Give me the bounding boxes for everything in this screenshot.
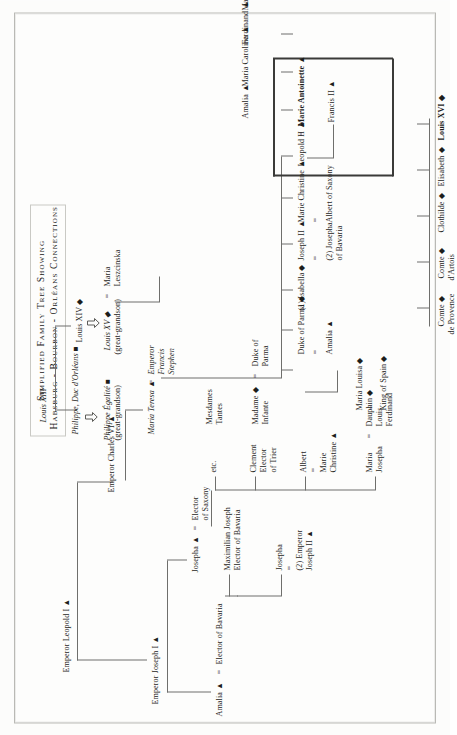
connector-louis15-bar — [159, 276, 160, 302]
node-louis-xv: Louis XV ◆ — [103, 311, 113, 350]
node-mesdames-tantes-line-2: Tantes — [215, 402, 225, 424]
node-mesdames-tantes-line-1: Mesdames — [205, 389, 215, 424]
connector-maria-louisa-bracket — [305, 391, 337, 392]
node-emperor-joseph-ii-second: (2) Emperor — [295, 529, 305, 570]
node-comte-de-provence-line-1: Comte ◆ — [437, 296, 447, 326]
tick-marie-antoinette — [281, 155, 293, 156]
connector-saxony-to-clement — [255, 476, 256, 490]
node-elector-saxony-line-2: of Saxony — [201, 486, 211, 520]
node-etc-saxony: etc. — [209, 460, 219, 472]
tick-ferdinand — [281, 33, 293, 34]
node-clement-line-1: Clement — [249, 444, 259, 472]
node-duke-of-parma-equals: = — [311, 349, 321, 354]
connector-saxony-entry — [211, 490, 212, 526]
family-tree-chart: Simplified Family Tree Showing Habsburg … — [15, 13, 435, 722]
node-philippe-egalite-note: (great-grandson) — [113, 384, 123, 440]
tick-louis16 — [417, 123, 429, 124]
node-duke-of-parma-line-1: Duke of — [251, 339, 261, 366]
tick-maria-louisa — [281, 369, 293, 370]
node-marie-antoinette-equals: = — [297, 131, 307, 136]
tick-comte-artois — [417, 261, 429, 262]
node-maria-louisa: Maria Louisa ◆ — [355, 357, 365, 410]
node-king-of-spain: King of Spain ◆ — [379, 355, 389, 410]
node-francis-ii: Francis II ▲ — [327, 80, 337, 122]
node-josepha-bavaria-equals: = — [285, 565, 295, 570]
connector-charles6-down — [125, 409, 143, 410]
node-maria-josepha-line-2: Josepha — [375, 446, 385, 472]
connector-leopold1-horizontal — [77, 482, 78, 660]
node-max-mt: Max ▲ — [241, 0, 251, 10]
node-albert-equals: = — [309, 467, 319, 472]
node-albert-spouse-line-2: Christine ▲ — [329, 431, 339, 472]
connector-louis16-siblings-bar — [429, 118, 430, 326]
node-elector-of-bavaria: Elector of Bavaria — [215, 603, 225, 664]
connector-bavaria-to-max — [229, 574, 230, 596]
node-emperor-joseph-ii-second-name: Joseph II ▲ — [305, 529, 315, 570]
box-bottom-edge — [392, 58, 394, 176]
box-left-edge — [273, 175, 393, 177]
node-elisabeth: Elisabeth ◆ — [437, 147, 447, 186]
connector-bavaria-vertical — [225, 595, 281, 596]
connector-louis15-spine — [115, 301, 159, 302]
connector-joseph1-to-amalia — [167, 691, 211, 692]
tick-comte-provence — [417, 307, 429, 308]
node-albert-spouse-line-1: Marie — [319, 452, 329, 472]
node-josepha-bavaria: Josepha — [275, 544, 285, 570]
connector-leopold2-bar — [333, 124, 334, 158]
node-joseph-ii-second-equals: = — [311, 255, 321, 260]
node-isabella: (1) Isabella ◆ — [297, 264, 307, 310]
node-josepha-habsburg: Josepha ▲ — [191, 535, 201, 572]
node-amalia-habsburg: Amalia ▲ — [215, 681, 225, 716]
node-maria-leszcinska-line-2: Leszcinska — [113, 249, 123, 286]
node-maximilian-joseph-title: Elector of Bavaria — [233, 509, 243, 570]
node-maria-teresa-equals: = — [147, 379, 157, 384]
connector-saxony-to-albert — [305, 476, 306, 490]
node-amalia-parma: Amalia ▲ — [325, 319, 335, 354]
connector-leopold1-left — [77, 659, 147, 660]
node-maria-josepha-line-1: Maria — [365, 452, 375, 472]
tick-isabella — [281, 289, 293, 290]
node-clement-line-2: Elector — [259, 448, 269, 472]
node-joseph-ii: Joseph II ▲ — [297, 219, 307, 260]
node-emperor-francis-stephen-line-1: Emperor — [147, 345, 157, 374]
connector-maria-teresa-children-bar — [281, 156, 282, 378]
tick-clothilde — [417, 215, 429, 216]
connector-saxony-to-maria-josepha — [375, 476, 376, 490]
tick-duke-parma — [281, 329, 293, 330]
node-madame-infante-line-1: Madame ◆ — [251, 387, 261, 424]
connector-saxony-vertical — [215, 489, 375, 490]
tick-leopold2 — [281, 197, 293, 198]
connector-charles6-to-maria-teresa — [125, 410, 126, 480]
connector-saxony-to-etc — [215, 476, 216, 490]
tick-maria-carolina — [281, 71, 293, 72]
node-maximilian-joseph: Maximilian Joseph — [223, 506, 233, 570]
node-madame-infante-equals: = — [251, 373, 261, 378]
node-comte-d-artois-line-2: d'Artois — [447, 253, 457, 280]
node-clement-line-3: of Trier — [269, 447, 279, 472]
node-emperor-leopold-i: Emperor Leopold I ▲ — [62, 598, 72, 672]
node-elector-saxony-line-1: Elector — [191, 496, 201, 520]
connector-joseph1-children — [167, 560, 168, 692]
connector-leopold2-to-francis2 — [307, 157, 333, 158]
node-marie-antoinette: Marie Antoinette ▲ — [297, 55, 307, 126]
tick-elisabeth — [417, 169, 429, 170]
node-josepha-equals: = — [191, 525, 201, 530]
node-comte-d-artois-line-1: Comte ◆ — [437, 248, 447, 278]
box-top-edge — [273, 58, 275, 176]
node-emperor-joseph-i: Emperor Joseph I ▲ — [151, 635, 161, 704]
connector-joseph1-to-josepha — [167, 559, 187, 560]
node-madame-infante-line-2: Infante — [261, 400, 271, 424]
node-maria-leszcinska-line-1: Maria — [103, 266, 113, 286]
tick-marie-christine — [281, 243, 293, 244]
node-leopold-ii: Leopold II ▲ — [297, 120, 307, 166]
node-emperor-francis-stephen-line-3: Stephen — [167, 348, 177, 374]
engraved-frame: Simplified Family Tree Showing Habsburg … — [14, 12, 436, 723]
node-albert-of-saxony: Albert of Saxony — [325, 165, 335, 222]
node-duke-of-parma-line-2: Parma — [261, 345, 271, 366]
node-albert-line-1: Albert — [299, 451, 309, 472]
node-louis-xv-equals: = — [103, 293, 113, 298]
connector-louis13-children — [55, 326, 56, 410]
node-louis-xiv: Louis XIV ◆ — [75, 298, 85, 342]
